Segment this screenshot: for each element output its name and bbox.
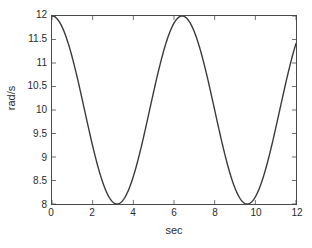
x-tick-label: 6: [171, 208, 177, 218]
x-tick-label: 0: [48, 208, 54, 218]
x-tick-label: 2: [89, 208, 95, 218]
y-tick-label: 11.5: [28, 34, 47, 44]
y-tick-label: 9: [41, 153, 47, 163]
y-tick-label: 9.5: [33, 129, 47, 139]
x-axis-label: sec: [51, 224, 297, 236]
x-tick-label: 10: [250, 208, 261, 218]
y-tick-label: 8: [41, 200, 47, 210]
y-tick-label: 10: [36, 105, 47, 115]
y-axis-label: rad/s: [5, 63, 17, 133]
x-tick-label: 8: [212, 208, 218, 218]
data-series-line: [52, 16, 296, 204]
y-tick-label: 8.5: [33, 176, 47, 186]
x-tick-label: 12: [291, 208, 302, 218]
y-tick-label: 12: [36, 10, 47, 20]
x-tick-label: 4: [130, 208, 136, 218]
plot-area: [51, 15, 297, 205]
series-polyline: [52, 16, 296, 204]
x-axis-tick-labels: 024681012: [51, 208, 297, 222]
y-tick-label: 10.5: [28, 81, 47, 91]
y-tick-label: 11: [37, 58, 47, 68]
chart-figure: 88.599.51010.51111.512 024681012 sec rad…: [0, 0, 312, 248]
